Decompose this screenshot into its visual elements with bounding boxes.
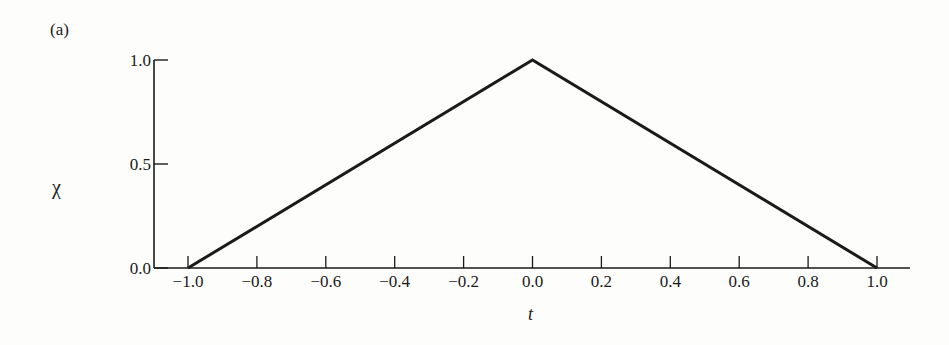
x-tick-label: −1.0 bbox=[173, 272, 204, 291]
x-tick-label: −0.6 bbox=[310, 272, 341, 291]
x-tick-label: 0.4 bbox=[660, 272, 682, 291]
series-line bbox=[188, 60, 877, 268]
x-tick-label: −0.2 bbox=[448, 272, 479, 291]
x-tick-label: −0.8 bbox=[241, 272, 272, 291]
y-tick-label: 0.0 bbox=[130, 259, 151, 278]
y-tick-label: 1.0 bbox=[130, 51, 151, 70]
x-tick-label: 0.6 bbox=[729, 272, 750, 291]
x-tick-label: 0.0 bbox=[522, 272, 543, 291]
x-tick-label: 0.8 bbox=[797, 272, 818, 291]
y-tick-label: 0.5 bbox=[130, 155, 151, 174]
x-tick-label: 1.0 bbox=[866, 272, 887, 291]
chart-plot: 0.00.51.0−1.0−0.8−0.6−0.4−0.20.00.20.40.… bbox=[0, 0, 949, 345]
x-tick-label: −0.4 bbox=[379, 272, 410, 291]
x-tick-label: 0.2 bbox=[591, 272, 612, 291]
